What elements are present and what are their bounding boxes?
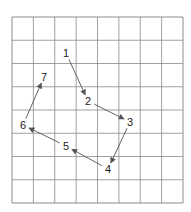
point-label-6: 6 — [20, 119, 26, 131]
point-label-2: 2 — [85, 95, 91, 107]
arrow-2-to-3 — [94, 104, 123, 119]
grid — [12, 17, 183, 203]
point-label-1: 1 — [63, 47, 69, 59]
point-label-5: 5 — [63, 140, 69, 152]
arrow-1-to-2 — [69, 59, 85, 94]
numbered-path-diagram: 1234567 — [0, 0, 191, 212]
point-label-7: 7 — [41, 71, 47, 83]
point-label-3: 3 — [127, 116, 133, 128]
point-label-4: 4 — [105, 163, 111, 175]
